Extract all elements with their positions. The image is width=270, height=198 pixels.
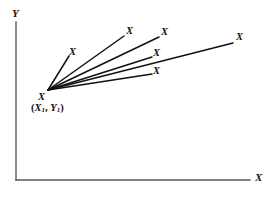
ray-2-steep-upper (48, 36, 124, 90)
coord-close-paren: ) (60, 102, 64, 113)
ray-1-short-upper-left-endpoint-label: X (69, 47, 76, 58)
ray-4-middle-endpoint-label: X (153, 48, 160, 59)
x-axis-label: X (255, 172, 262, 183)
ray-2-steep-upper-endpoint-label: X (126, 26, 133, 37)
ray-6-long-right-endpoint-label: X (236, 32, 243, 43)
ray-5-lower-endpoint-label: X (153, 66, 160, 77)
coord-x-var: X (35, 102, 42, 113)
ray-3-upper-endpoint-label: X (161, 27, 168, 38)
base-point-coordinate-label: (X1, Y1) (31, 103, 64, 114)
axes-group (16, 22, 250, 180)
ray-lines-group (48, 36, 233, 90)
figure-canvas: Y X X (X1, Y1) XXXXXX (0, 0, 270, 198)
y-axis-label: Y (12, 8, 19, 19)
base-point-marker: X (38, 92, 45, 103)
ray-4-middle (48, 57, 152, 90)
